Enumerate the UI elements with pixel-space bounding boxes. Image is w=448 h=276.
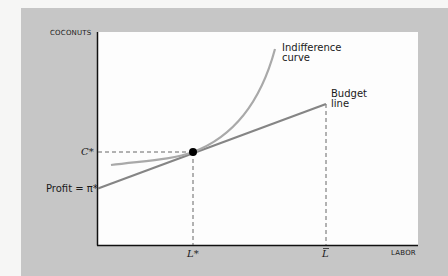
x-axis-label: LABOR <box>391 249 416 257</box>
c-star-label: C* <box>81 146 94 157</box>
y-axis-label: COCONUTS <box>50 29 91 37</box>
indifference-curve <box>111 49 275 165</box>
l-star-label: L* <box>187 248 199 259</box>
tangency-point <box>189 148 197 156</box>
budget-line-label: Budget line <box>331 89 367 109</box>
budget-line <box>98 104 326 189</box>
budget-label-line2: line <box>331 99 367 109</box>
diagram-svg <box>0 0 448 276</box>
l-bar-label: L <box>322 248 329 259</box>
profit-intercept-label: Profit = π* <box>46 183 98 194</box>
indifference-curve-label: Indifference curve <box>282 43 342 63</box>
indifference-label-line2: curve <box>282 53 342 63</box>
